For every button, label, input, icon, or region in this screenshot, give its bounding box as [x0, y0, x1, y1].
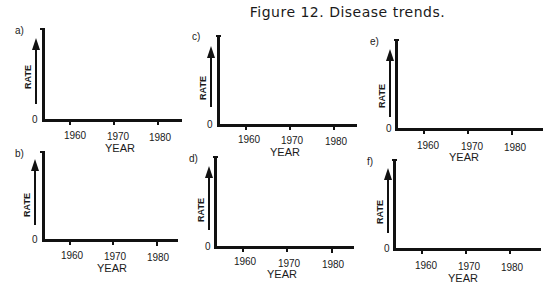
- x-tick: [467, 130, 469, 134]
- x-tick: [69, 121, 71, 125]
- x-axis-label: YEAR: [97, 262, 127, 274]
- figure-title: Figure 12. Disease trends.: [0, 4, 555, 20]
- panel-label: e): [370, 36, 379, 47]
- y-axis-label: RATE: [375, 200, 385, 224]
- y-zero-label: 0: [32, 234, 38, 245]
- x-tick: [245, 126, 247, 130]
- x-tick-label: 1960: [415, 260, 437, 271]
- x-axis-label: YEAR: [105, 142, 135, 154]
- y-axis-label: RATE: [22, 193, 32, 217]
- arrow-shaft: [35, 48, 37, 104]
- x-tick: [465, 250, 467, 254]
- y-axis: [42, 28, 45, 121]
- x-axis: [214, 246, 354, 249]
- x-axis-label: YEAR: [448, 272, 478, 284]
- x-tick-label: 1960: [238, 134, 260, 145]
- x-tick: [69, 241, 71, 245]
- x-tick: [242, 248, 244, 252]
- y-axis-label: RATE: [23, 65, 33, 89]
- y-zero-label: 0: [386, 123, 392, 134]
- y-axis: [393, 159, 396, 250]
- panel-label: a): [15, 25, 24, 36]
- y-zero-label: 0: [384, 243, 390, 254]
- x-tick-label: 1980: [149, 132, 171, 143]
- panel-label: f): [367, 156, 373, 167]
- x-tick: [331, 249, 333, 253]
- panel-label: b): [15, 148, 24, 159]
- x-tick-label: 1980: [322, 259, 344, 270]
- x-tick: [511, 131, 513, 135]
- panel-label: d): [189, 153, 198, 164]
- y-axis-label: RATE: [377, 84, 387, 108]
- x-tick: [113, 121, 115, 125]
- x-tick: [157, 121, 159, 125]
- y-axis: [214, 156, 217, 248]
- y-axis: [217, 35, 220, 126]
- y-zero-label: 0: [207, 119, 213, 130]
- x-axis: [217, 124, 357, 127]
- x-tick-label: 1980: [504, 142, 526, 153]
- x-axis-label: YEAR: [267, 268, 297, 280]
- y-zero-label: 0: [32, 114, 38, 125]
- x-tick-label: 1980: [147, 252, 169, 263]
- panel-label: c): [192, 31, 200, 42]
- x-tick: [333, 126, 335, 130]
- arrow-shaft: [208, 176, 210, 230]
- x-tick-label: 1960: [64, 130, 86, 141]
- x-tick-label: 1980: [501, 262, 523, 273]
- x-tick: [289, 126, 291, 130]
- x-tick: [156, 242, 158, 246]
- y-axis: [42, 151, 45, 241]
- x-tick-label: 1980: [325, 136, 347, 147]
- x-tick-label: 1970: [107, 131, 129, 142]
- arrow-shaft: [210, 56, 212, 107]
- x-tick: [421, 250, 423, 254]
- y-axis-label: RATE: [198, 76, 208, 100]
- x-tick: [286, 248, 288, 252]
- arrow-shaft: [387, 178, 389, 233]
- x-tick-label: 1970: [458, 261, 480, 272]
- x-tick-label: 1960: [61, 250, 83, 261]
- x-axis-label: YEAR: [449, 151, 479, 163]
- y-axis-label: RATE: [196, 198, 206, 222]
- x-tick: [112, 241, 114, 245]
- y-zero-label: 0: [205, 241, 211, 252]
- x-tick-label: 1970: [104, 251, 126, 262]
- x-axis-label: YEAR: [270, 146, 300, 158]
- x-axis: [42, 119, 182, 122]
- arrow-shaft: [34, 169, 36, 225]
- x-axis: [395, 128, 543, 131]
- x-axis: [393, 248, 541, 251]
- x-tick-label: 1970: [281, 135, 303, 146]
- arrow-shaft: [389, 59, 391, 117]
- x-tick-label: 1960: [234, 256, 256, 267]
- y-axis: [395, 39, 398, 130]
- x-tick: [509, 250, 511, 254]
- x-tick-label: 1960: [417, 140, 439, 151]
- x-tick: [423, 130, 425, 134]
